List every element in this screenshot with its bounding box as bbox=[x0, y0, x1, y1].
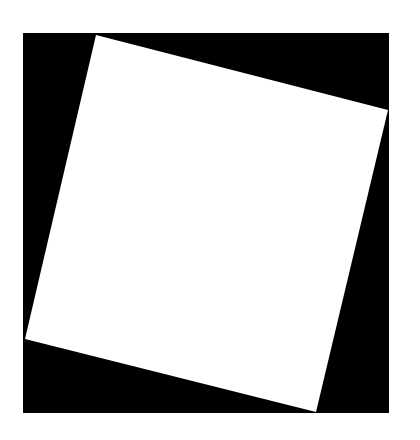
canvas bbox=[0, 0, 420, 440]
